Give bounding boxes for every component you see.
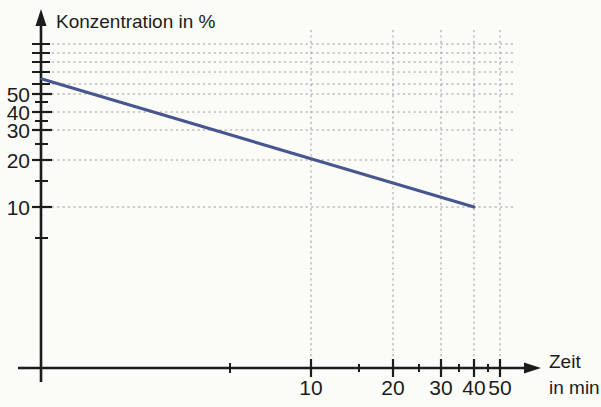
y-tick-label-20: 20	[0, 150, 30, 171]
y-tick-label-30: 30	[0, 120, 30, 141]
x-tick-label-50: 50	[475, 377, 525, 398]
chart-background	[0, 0, 601, 407]
x-tick-label-10: 10	[286, 377, 336, 398]
x-tick-label-20: 20	[368, 377, 418, 398]
y-axis-title: Konzentration in %	[56, 12, 216, 31]
x-axis-title: Zeit	[549, 352, 581, 371]
log-log-line-chart	[0, 0, 601, 407]
y-tick-label-10: 10	[0, 197, 30, 218]
chart-canvas: Konzentration in % 50 40 30 20 10 10 20 …	[0, 0, 601, 407]
x-axis-unit-label: in min	[549, 378, 600, 397]
